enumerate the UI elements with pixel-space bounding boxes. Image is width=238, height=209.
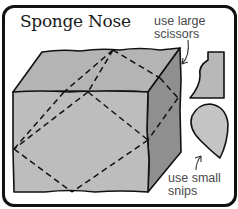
sponge-illustration <box>0 0 238 209</box>
small-teardrop-piece <box>191 104 228 158</box>
large-scissors-arrow-icon <box>182 40 188 64</box>
sponge-front-face <box>13 91 149 192</box>
small-snips-arrow-icon <box>195 156 201 170</box>
large-cut-piece <box>190 52 224 98</box>
